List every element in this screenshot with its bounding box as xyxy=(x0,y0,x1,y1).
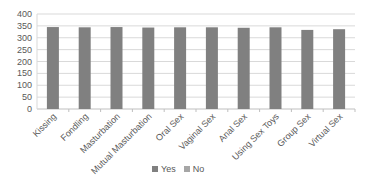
x-category-label: Oral Sex xyxy=(154,111,186,143)
legend-item-yes: Yes xyxy=(152,164,176,174)
bar-yes xyxy=(301,30,313,109)
legend-label-no: No xyxy=(193,164,205,174)
y-tick-label: 200 xyxy=(17,57,32,67)
y-tick-label: 150 xyxy=(17,68,32,78)
legend: Yes No xyxy=(152,164,204,174)
x-category-label: Virtual Sex xyxy=(307,111,345,149)
x-category-label: Anal Sex xyxy=(217,111,250,144)
y-tick-label: 400 xyxy=(17,9,32,19)
x-category-label: Mutual Masturbation xyxy=(89,111,154,176)
bar-yes xyxy=(270,27,282,109)
bar-yes xyxy=(333,29,345,109)
bar-yes xyxy=(174,27,186,109)
legend-label-yes: Yes xyxy=(161,164,176,174)
x-category-label: Fondling xyxy=(59,111,90,142)
legend-swatch-no xyxy=(184,166,190,172)
bar-yes xyxy=(206,27,218,109)
bar-yes xyxy=(238,28,250,109)
y-tick-label: 50 xyxy=(22,92,32,102)
y-axis: 050100150200250300350400 xyxy=(17,9,37,114)
bar-yes xyxy=(79,27,91,109)
bar-chart: 050100150200250300350400 KissingFondling… xyxy=(0,0,370,188)
legend-swatch-yes xyxy=(152,166,158,172)
bar-yes xyxy=(142,28,154,109)
y-tick-label: 250 xyxy=(17,45,32,55)
x-category-label: Kissing xyxy=(31,111,59,139)
y-tick-label: 350 xyxy=(17,21,32,31)
y-tick-label: 0 xyxy=(27,104,32,114)
bar-yes xyxy=(47,27,59,109)
bar-yes xyxy=(111,27,123,109)
legend-item-no: No xyxy=(184,164,205,174)
y-tick-label: 100 xyxy=(17,80,32,90)
y-tick-label: 300 xyxy=(17,33,32,43)
